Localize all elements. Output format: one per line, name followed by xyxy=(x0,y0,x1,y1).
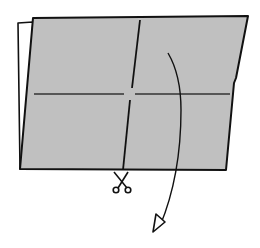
origami-diagram xyxy=(0,0,260,248)
scissors-icon xyxy=(113,172,131,193)
front-sheet xyxy=(20,16,248,170)
diagram-svg xyxy=(0,0,260,248)
